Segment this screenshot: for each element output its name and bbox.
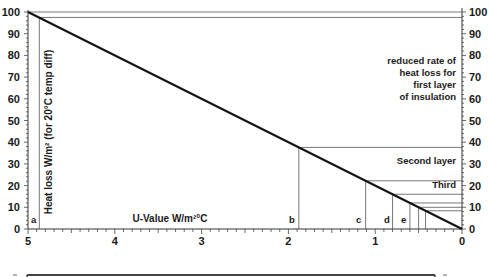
x-axis-title: U-Value W/m²°C bbox=[132, 213, 207, 224]
y-tick-label-right: 70 bbox=[469, 71, 481, 83]
y-tick-label-right: 20 bbox=[469, 180, 481, 192]
x-tick-label: 4 bbox=[112, 235, 119, 247]
y-tick-label-right: 90 bbox=[469, 28, 481, 40]
marker-label-d: d bbox=[384, 214, 390, 225]
x-ticks: 543210 bbox=[25, 229, 465, 247]
y-tick-label-right: 50 bbox=[469, 115, 481, 127]
y-tick-label-left: 30 bbox=[8, 158, 20, 170]
y-tick-label-right: 10 bbox=[469, 201, 481, 213]
heat-loss-line bbox=[28, 12, 462, 229]
y-axis-title: Heat loss W/m² (for 20°C temp diff) bbox=[43, 50, 54, 215]
y-tick-label-right: 60 bbox=[469, 93, 481, 105]
marker-label-b: b bbox=[289, 214, 295, 225]
annotation-third-layer: Third bbox=[432, 179, 456, 190]
heat-loss-chart: 0102030405060708090100 01020304050607080… bbox=[0, 0, 489, 277]
annotation-second-layer: Second layer bbox=[397, 155, 456, 166]
annotation-first-line-2: heat loss for bbox=[400, 67, 457, 78]
x-tick-label: 2 bbox=[285, 235, 291, 247]
annotation-first-line-4: of insulation bbox=[400, 91, 457, 102]
y-tick-label-left: 70 bbox=[8, 71, 20, 83]
y-tick-label-left: 40 bbox=[8, 136, 20, 148]
y-tick-label-left: 0 bbox=[14, 223, 20, 235]
y-tick-label-right: 0 bbox=[469, 223, 475, 235]
y-tick-label-left: 90 bbox=[8, 28, 20, 40]
annotation-first-line-3: first layer bbox=[413, 79, 456, 90]
x-tick-label: 3 bbox=[199, 235, 205, 247]
y-tick-label-left: 80 bbox=[8, 49, 20, 61]
y-tick-label-right: 40 bbox=[469, 136, 481, 148]
marker-label-e: e bbox=[401, 214, 406, 225]
marker-label-a: a bbox=[31, 214, 37, 225]
y-tick-label-left: 60 bbox=[8, 93, 20, 105]
y-tick-label-left: 20 bbox=[8, 180, 20, 192]
y-tick-label-right: 100 bbox=[469, 6, 487, 18]
left-y-ticks: 0102030405060708090100 bbox=[2, 6, 28, 235]
right-y-ticks: 0102030405060708090100 bbox=[462, 6, 487, 235]
y-tick-label-left: 100 bbox=[2, 6, 20, 18]
y-tick-label-right: 30 bbox=[469, 158, 481, 170]
x-tick-label: 5 bbox=[25, 235, 31, 247]
x-tick-label: 0 bbox=[459, 235, 465, 247]
x-tick-label: 1 bbox=[372, 235, 378, 247]
y-tick-label-right: 80 bbox=[469, 49, 481, 61]
annotation-first-line-1: reduced rate of bbox=[387, 55, 456, 66]
marker-label-c: c bbox=[356, 214, 361, 225]
y-tick-label-left: 50 bbox=[8, 115, 20, 127]
y-tick-label-left: 10 bbox=[8, 201, 20, 213]
